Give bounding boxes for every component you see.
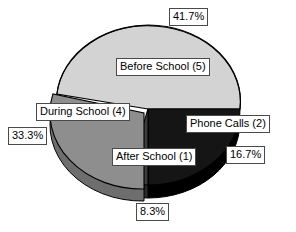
callout-percent-top: 41.7% [169, 8, 208, 26]
slice-label-after-school: After School (1) [112, 148, 196, 166]
slice-label-during-school: During School (4) [36, 103, 130, 121]
slice-label-phone-calls: Phone Calls (2) [186, 115, 270, 133]
pie-chart-figure: 41.7% 33.3% 16.7% 8.3% Before School (5)… [0, 0, 296, 232]
callout-percent-right: 16.7% [226, 146, 265, 164]
slice-label-before-school: Before School (5) [116, 58, 210, 76]
callout-percent-left: 33.3% [8, 127, 47, 145]
callout-percent-bottom: 8.3% [136, 203, 169, 221]
